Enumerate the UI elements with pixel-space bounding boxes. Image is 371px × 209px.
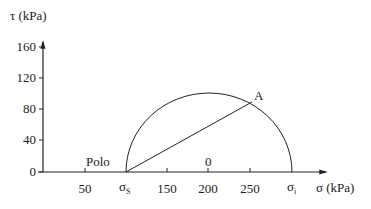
mohr-circle-diagram: 0 40 80 120 160 τ (kPa) 50 150 200 250 σ… <box>0 0 371 209</box>
x-tick-200: 200 <box>198 181 218 196</box>
y-tick-120: 120 <box>17 70 37 85</box>
center-label: 0 <box>205 154 212 169</box>
y-tick-160: 160 <box>17 39 37 54</box>
y-tick-0: 0 <box>30 164 37 179</box>
pole-label: Polo <box>86 154 110 169</box>
x-tick-250: 250 <box>240 181 260 196</box>
y-axis-label: τ (kPa) <box>10 8 47 23</box>
x-axis-label: σ (kPa) <box>316 180 354 195</box>
x-tick-150: 150 <box>157 181 177 196</box>
x-tick-50: 50 <box>79 181 92 196</box>
sigma-i-label: σi <box>287 179 297 196</box>
sigma-s-label: σS <box>119 179 130 196</box>
y-tick-40: 40 <box>23 132 36 147</box>
pole-to-a-line <box>126 102 252 172</box>
point-a-label: A <box>254 88 264 103</box>
y-tick-80: 80 <box>23 101 36 116</box>
